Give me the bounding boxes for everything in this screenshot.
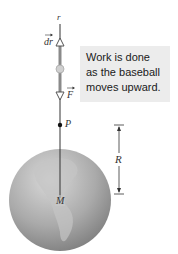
caption-line-3: moves upward.: [86, 80, 170, 95]
label-r: r: [57, 12, 61, 22]
caption-line-2: as the baseball: [86, 65, 170, 80]
dr-arrow-icon: [56, 38, 64, 46]
label-p: P: [65, 118, 71, 129]
label-f: F: [67, 89, 73, 100]
label-m: M: [55, 195, 65, 206]
caption-line-1: Work is done: [86, 50, 170, 65]
label-radius: R: [115, 153, 122, 165]
point-p-dot: [58, 123, 62, 127]
diagram-canvas: [0, 0, 178, 254]
force-arrow-icon: [56, 92, 64, 100]
caption-box: Work is done as the baseball moves upwar…: [80, 46, 170, 102]
baseball-icon: [56, 65, 64, 73]
label-dr: dr: [44, 36, 53, 47]
